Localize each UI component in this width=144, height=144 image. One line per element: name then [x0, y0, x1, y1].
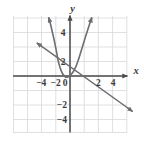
- x-tick-label-4: 4: [111, 78, 116, 88]
- y-axis-label: y: [68, 3, 75, 14]
- x-tick-labels: −4 −2 0 2 4: [36, 78, 115, 88]
- x-tick-label-neg2: −2: [51, 78, 61, 88]
- x-tick-label-0: 0: [63, 78, 68, 88]
- graph-figure: −4 −2 0 2 4 4 2 −2 −4 x y: [0, 0, 144, 144]
- y-tick-label-2: 2: [61, 57, 66, 67]
- x-tick-label-2: 2: [96, 78, 101, 88]
- x-axis-label: x: [132, 65, 138, 76]
- y-tick-label-neg2: −2: [57, 100, 67, 110]
- coordinate-plane-svg: −4 −2 0 2 4 4 2 −2 −4 x y: [0, 0, 144, 144]
- y-tick-label-neg4: −4: [57, 115, 67, 125]
- line-arrow-downright: [128, 108, 133, 112]
- x-tick-label-neg4: −4: [36, 78, 46, 88]
- y-tick-label-4: 4: [61, 28, 66, 38]
